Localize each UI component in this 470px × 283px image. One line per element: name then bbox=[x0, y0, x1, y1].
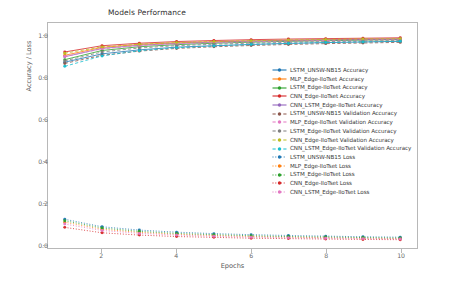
chart-legend: LSTM_UNSW-NB15 AccuracyMLP_Edge-IIoTset … bbox=[272, 66, 417, 196]
series-line bbox=[65, 224, 400, 239]
x-tick-label: 6 bbox=[239, 252, 263, 259]
x-tick-mark bbox=[401, 249, 402, 253]
series-marker bbox=[63, 223, 66, 226]
series-marker bbox=[287, 236, 290, 239]
legend-swatch-icon bbox=[272, 188, 287, 196]
series-marker bbox=[250, 43, 253, 46]
series-marker bbox=[287, 39, 290, 42]
series-line bbox=[65, 42, 400, 63]
legend-swatch-icon bbox=[272, 127, 287, 135]
legend-label: CNN_Edge-IIoTset Validation Accuracy bbox=[290, 136, 394, 145]
legend-item[interactable]: LSTM_UNSW-NB15 Accuracy bbox=[272, 66, 417, 75]
series-marker bbox=[138, 49, 141, 52]
legend-swatch-icon bbox=[272, 101, 287, 109]
series-marker bbox=[63, 65, 66, 68]
series-marker bbox=[101, 229, 104, 232]
legend-item[interactable]: LSTM_Edge-IIoTset Validation Accuracy bbox=[272, 127, 417, 136]
series-line bbox=[65, 40, 400, 60]
y-tick-mark bbox=[43, 245, 47, 246]
legend-label: LSTM_UNSW-NB15 Validation Accuracy bbox=[290, 109, 397, 118]
series-marker bbox=[175, 234, 178, 237]
legend-item[interactable]: CNN_Edge-IIoTset Accuracy bbox=[272, 92, 417, 101]
legend-item[interactable]: LSTM_Edge-IIoTset Accuracy bbox=[272, 83, 417, 92]
y-tick-mark bbox=[43, 161, 47, 162]
x-tick-label: 10 bbox=[389, 252, 413, 259]
legend-label: CNN_Edge-IIoTset Accuracy bbox=[290, 92, 365, 101]
series-marker bbox=[399, 37, 402, 40]
series-marker bbox=[324, 237, 327, 240]
legend-item[interactable]: LSTM_UNSW-NB15 Loss bbox=[272, 153, 417, 162]
series-marker bbox=[175, 41, 178, 44]
legend-swatch-icon bbox=[272, 110, 287, 118]
legend-swatch-icon bbox=[272, 179, 287, 187]
series-line bbox=[65, 222, 400, 238]
x-axis-label: Epochs bbox=[47, 262, 418, 270]
series-marker bbox=[101, 50, 104, 53]
chart-title: Models Performance bbox=[47, 8, 247, 17]
series-marker bbox=[63, 219, 66, 222]
legend-label: LSTM_UNSW-NB15 Loss bbox=[290, 153, 355, 162]
series-marker bbox=[212, 44, 215, 47]
series-marker bbox=[101, 45, 104, 48]
legend-label: CNN_LSTM_Edge-IIoTset Accuracy bbox=[290, 101, 382, 110]
legend-item[interactable]: CNN_LSTM_Edge-IIoTset Loss bbox=[272, 188, 417, 197]
legend-item[interactable]: CNN_Edge-IIoTset Validation Accuracy bbox=[272, 136, 417, 145]
series-marker bbox=[399, 40, 402, 43]
x-tick-mark bbox=[326, 249, 327, 253]
series-marker bbox=[63, 55, 66, 58]
legend-label: LSTM_Edge-IIoTset Accuracy bbox=[290, 83, 368, 92]
legend-swatch-icon bbox=[272, 162, 287, 170]
x-tick-mark bbox=[251, 249, 252, 253]
legend-label: CNN_Edge-IIoTset Loss bbox=[290, 179, 352, 188]
legend-item[interactable]: LSTM_Edge-IIoTset Loss bbox=[272, 170, 417, 179]
series-marker bbox=[324, 38, 327, 41]
y-tick-mark bbox=[43, 77, 47, 78]
series-marker bbox=[138, 47, 141, 50]
legend-item[interactable]: LSTM_UNSW-NB15 Validation Accuracy bbox=[272, 109, 417, 118]
legend-item[interactable]: MLP_Edge-IIoTset Validation Accuracy bbox=[272, 118, 417, 127]
legend-item[interactable]: MLP_Edge-IIoTset Loss bbox=[272, 162, 417, 171]
legend-label: CNN_LSTM_Edge-IIoTset Validation Accurac… bbox=[290, 144, 411, 153]
series-marker bbox=[63, 59, 66, 62]
legend-swatch-icon bbox=[272, 171, 287, 179]
x-tick-label: 4 bbox=[164, 252, 188, 259]
legend-label: CNN_LSTM_Edge-IIoTset Loss bbox=[290, 188, 369, 197]
y-axis-label: Accuracy / Loss bbox=[25, 0, 33, 141]
series-line bbox=[65, 221, 400, 238]
legend-label: LSTM_UNSW-NB15 Accuracy bbox=[290, 66, 368, 75]
y-tick-label: 0.4 bbox=[8, 157, 48, 164]
legend-swatch-icon bbox=[272, 84, 287, 92]
y-tick-mark bbox=[43, 35, 47, 36]
series-marker bbox=[212, 40, 215, 43]
legend-swatch-icon bbox=[272, 136, 287, 144]
legend-label: MLP_Edge-IIoTset Accuracy bbox=[290, 75, 364, 84]
x-tick-mark bbox=[101, 249, 102, 253]
x-tick-label: 2 bbox=[89, 252, 113, 259]
legend-swatch-icon bbox=[272, 66, 287, 74]
series-marker bbox=[138, 43, 141, 46]
legend-swatch-icon bbox=[272, 118, 287, 126]
legend-item[interactable]: CNN_LSTM_Edge-IIoTset Validation Accurac… bbox=[272, 144, 417, 153]
y-tick-mark bbox=[43, 203, 47, 204]
series-marker bbox=[361, 40, 364, 43]
series-marker bbox=[63, 226, 66, 229]
series-marker bbox=[287, 42, 290, 45]
y-tick-label: 0.2 bbox=[8, 199, 48, 206]
legend-swatch-icon bbox=[272, 145, 287, 153]
legend-swatch-icon bbox=[272, 153, 287, 161]
series-marker bbox=[101, 54, 104, 57]
series-marker bbox=[63, 52, 66, 55]
chart-figure: Models Performance 0.00.20.40.60.81.0 24… bbox=[0, 0, 470, 283]
series-marker bbox=[324, 41, 327, 44]
legend-item[interactable]: CNN_Edge-IIoTset Loss bbox=[272, 179, 417, 188]
y-tick-label: 0.0 bbox=[8, 241, 48, 248]
series-marker bbox=[250, 236, 253, 239]
legend-swatch-icon bbox=[272, 75, 287, 83]
legend-item[interactable]: CNN_LSTM_Edge-IIoTset Accuracy bbox=[272, 101, 417, 110]
legend-label: LSTM_Edge-IIoTset Loss bbox=[290, 170, 355, 179]
legend-item[interactable]: MLP_Edge-IIoTset Accuracy bbox=[272, 75, 417, 84]
series-marker bbox=[250, 39, 253, 42]
legend-label: LSTM_Edge-IIoTset Validation Accuracy bbox=[290, 127, 396, 136]
series-line bbox=[65, 219, 400, 237]
x-tick-mark bbox=[176, 249, 177, 253]
